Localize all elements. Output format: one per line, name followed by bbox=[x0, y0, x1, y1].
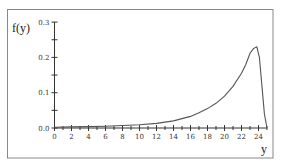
x-tick-label: 8 bbox=[120, 133, 124, 141]
x-tick-label: 22 bbox=[237, 133, 246, 141]
y-tick-label: 0.0 bbox=[38, 125, 49, 133]
y-axis-title: f(y) bbox=[12, 21, 30, 35]
x-tick-label: 10 bbox=[135, 133, 144, 141]
x-tick-label: 6 bbox=[103, 133, 108, 141]
y-tick-label: 0.2 bbox=[38, 54, 49, 62]
x-tick-label: 24 bbox=[254, 133, 263, 141]
x-axis-title: y bbox=[261, 142, 267, 156]
y-tick-label: 0.1 bbox=[38, 89, 49, 97]
x-tick-label: 16 bbox=[186, 133, 195, 141]
density-chart: 0.00.10.20.3024681012141618202224 f(y) y bbox=[0, 0, 282, 165]
x-tick-label: 2 bbox=[69, 133, 73, 141]
x-tick-label: 4 bbox=[86, 133, 91, 141]
x-tick-label: 20 bbox=[220, 133, 229, 141]
x-tick-label: 0 bbox=[52, 133, 56, 141]
x-tick-label: 12 bbox=[152, 133, 161, 141]
x-tick-label: 14 bbox=[169, 133, 178, 141]
y-tick-label: 0.3 bbox=[38, 19, 49, 27]
x-tick-label: 18 bbox=[203, 133, 212, 141]
